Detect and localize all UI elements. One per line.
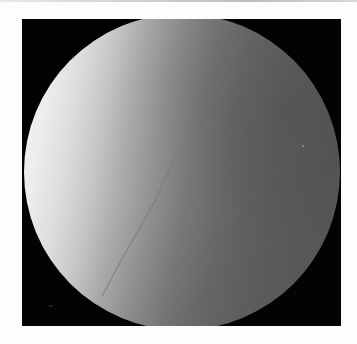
top-divider (0, 0, 357, 2)
image-page (0, 0, 357, 344)
circular-field-of-view (24, 19, 340, 326)
fluoroscopy-frame (22, 19, 341, 326)
bright-speck (302, 145, 304, 147)
guidewire-line (24, 19, 340, 326)
corner-artifact (49, 305, 53, 307)
